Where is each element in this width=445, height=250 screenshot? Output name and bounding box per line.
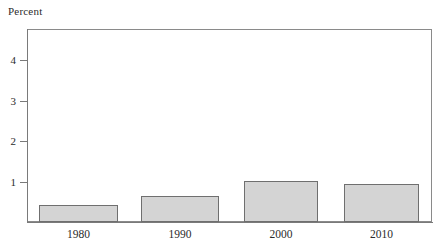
y-axis-spine xyxy=(27,29,28,223)
y-tick-label: 2 xyxy=(0,136,16,147)
y-tick-label: 3 xyxy=(0,96,16,107)
y-tick-label: 1 xyxy=(0,177,16,188)
bar-chart-figure: Percent 1234 1980199020002010 xyxy=(0,0,445,250)
x-axis-spine xyxy=(27,222,433,223)
bar-1980 xyxy=(39,205,118,223)
x-tick-label-2010: 2010 xyxy=(344,227,419,241)
y-tick-label: 4 xyxy=(0,55,16,66)
y-axis-title: Percent xyxy=(8,5,42,18)
y-tick-mark xyxy=(20,60,28,61)
y-tick-mark xyxy=(20,182,28,183)
y-tick-mark xyxy=(20,101,28,102)
bar-1990 xyxy=(141,196,219,222)
y-tick-mark xyxy=(20,141,28,142)
bar-2000 xyxy=(244,181,318,222)
x-tick-label-2000: 2000 xyxy=(244,227,318,241)
x-tick-label-1990: 1990 xyxy=(141,227,219,241)
bar-2010 xyxy=(344,184,419,222)
x-tick-label-1980: 1980 xyxy=(39,227,118,241)
